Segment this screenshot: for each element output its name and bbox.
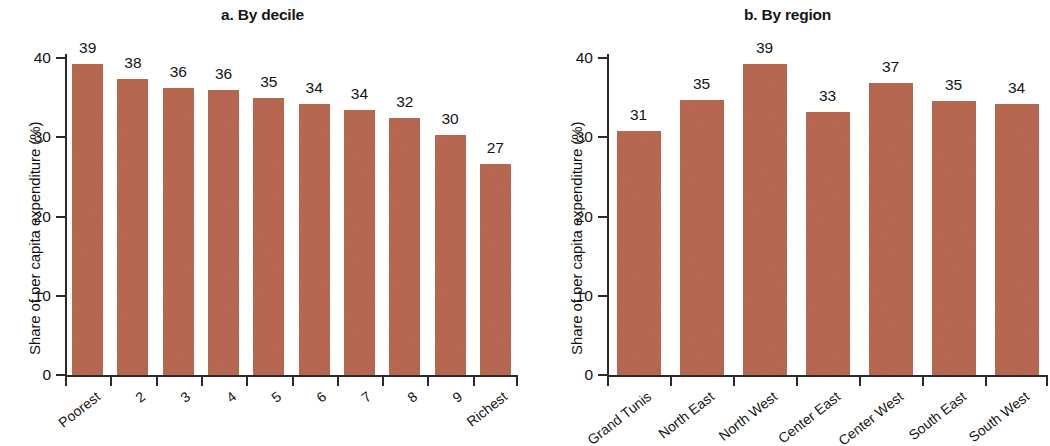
bar [435,135,466,375]
y-axis-tick [598,295,607,297]
y-axis-tick [56,216,65,218]
x-axis-tick [670,377,672,386]
y-axis-tick-label: 10 [549,288,593,304]
panel-a-title: a. By decile [0,6,525,24]
x-axis-tick [292,377,294,386]
bar [117,79,148,375]
bar-value-label: 39 [58,40,118,56]
x-axis-tick [1046,377,1048,386]
bar [299,104,330,375]
bar [480,164,511,375]
y-axis-tick [598,216,607,218]
bar [389,118,420,375]
x-axis-tick [156,377,158,386]
bar [743,64,787,375]
bar [253,98,284,375]
panel-by-decile: a. By decile Share of per capita expendi… [0,0,525,446]
y-axis-tick-label: 10 [7,288,51,304]
y-axis-tick-label: 0 [549,367,593,383]
y-axis-tick [598,57,607,59]
y-axis-line [65,54,67,377]
y-axis-tick-label: 0 [7,367,51,383]
y-axis-tick [56,374,65,376]
x-axis-tick [985,377,987,386]
y-axis-tick [56,57,65,59]
bar-value-label: 32 [375,94,435,110]
bar [163,88,194,375]
y-axis-tick [598,136,607,138]
bar [72,64,103,375]
x-axis-tick [733,377,735,386]
y-axis-tick-label: 30 [549,129,593,145]
y-axis-tick-label: 20 [549,209,593,225]
bar [344,110,375,375]
bar-value-label: 30 [420,111,480,127]
x-axis-tick [65,377,67,386]
bar-value-label: 35 [672,76,732,92]
y-axis-tick [598,374,607,376]
y-axis-tick-label: 20 [7,209,51,225]
x-axis-tick [110,377,112,386]
y-axis-tick-label: 40 [7,50,51,66]
panel-b-title: b. By region [525,6,1050,24]
x-axis-tick [796,377,798,386]
bar [806,112,850,375]
y-axis-tick-label: 40 [549,50,593,66]
x-axis-tick [246,377,248,386]
bar-value-label: 37 [861,59,921,75]
bar [208,90,239,375]
bar-value-label: 35 [924,77,984,93]
bar-value-label: 34 [987,80,1047,96]
x-axis-category-label: Grand Tunis [503,389,653,446]
x-axis-tick [473,377,475,386]
x-axis-tick [922,377,924,386]
y-axis-tick [56,136,65,138]
bar-value-label: 39 [735,40,795,56]
bar [617,131,661,375]
figure-container: a. By decile Share of per capita expendi… [0,0,1050,446]
x-axis-tick [516,377,518,386]
bar [995,104,1039,375]
x-axis-tick [607,377,609,386]
panel-b-y-axis-label: Share of per capita expenditure (%) [568,122,585,355]
bar-value-label: 33 [798,88,858,104]
bar [869,83,913,375]
bar-value-label: 31 [609,107,669,123]
y-axis-tick-label: 30 [7,129,51,145]
x-axis-tick [427,377,429,386]
panel-a-y-axis-label: Share of per capita expenditure (%) [26,122,43,355]
bar-value-label: 27 [465,140,525,156]
x-axis-tick [201,377,203,386]
panel-by-region: b. By region Share of per capita expendi… [525,0,1050,446]
y-axis-tick [56,295,65,297]
x-axis-line [607,375,1048,377]
x-axis-tick [337,377,339,386]
bar [680,100,724,375]
x-axis-tick [382,377,384,386]
y-axis-line [607,54,609,377]
bar [932,101,976,375]
x-axis-tick [859,377,861,386]
